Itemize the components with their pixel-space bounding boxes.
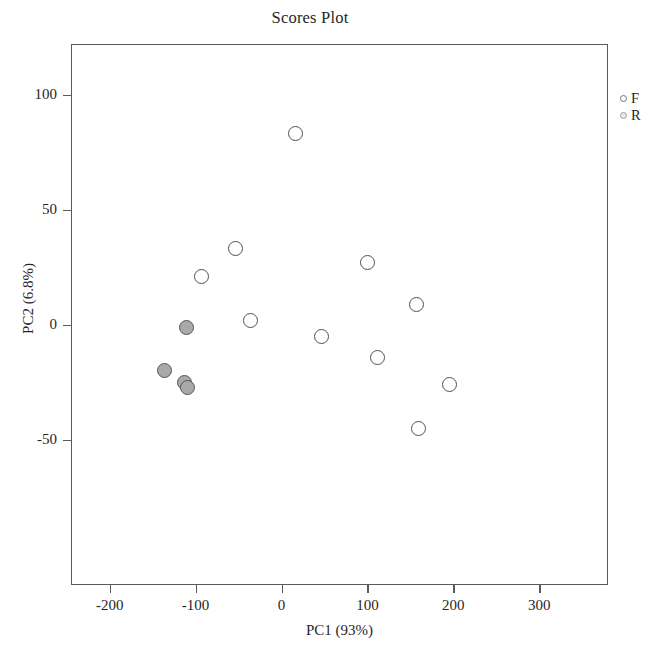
x-tick-label-3: 100 [332,597,402,614]
x-tick-2 [282,585,283,593]
x-tick-4 [453,585,454,593]
x-tick-0 [110,585,111,593]
legend-marker-filled-circle-icon [620,112,627,119]
x-tick-3 [367,585,368,593]
x-tick-label-4: 200 [418,597,488,614]
legend: FR [620,90,651,124]
x-tick-5 [539,585,540,593]
chart-title: Scores Plot [0,8,620,28]
legend-label-r: R [631,108,641,123]
plot-frame [71,44,608,585]
legend-label-f: F [631,91,639,106]
y-axis-title: PC2 (6.8%) [20,209,37,389]
y-tick-0 [63,95,71,96]
y-tick-label-3: -50 [0,431,57,448]
x-tick-label-1: -100 [161,597,231,614]
legend-marker-open-circle-icon [620,95,627,102]
x-axis-title: PC1 (93%) [71,622,608,639]
y-tick-label-0: 100 [0,86,57,103]
x-tick-label-0: -200 [75,597,145,614]
x-tick-label-5: 300 [504,597,574,614]
legend-item-r[interactable]: R [620,107,651,124]
y-tick-3 [63,440,71,441]
x-tick-1 [196,585,197,593]
x-tick-label-2: 0 [247,597,317,614]
scores-plot-figure: Scores Plot -200-1000100200300 100500-50… [0,0,651,650]
y-tick-1 [63,210,71,211]
y-tick-2 [63,325,71,326]
legend-item-f[interactable]: F [620,90,651,107]
